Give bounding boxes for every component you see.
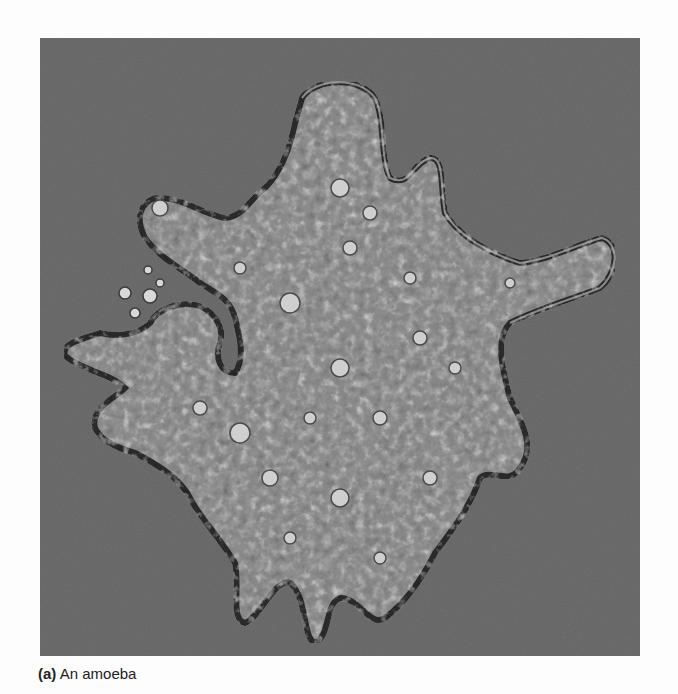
caption-label: (a) bbox=[38, 665, 56, 682]
caption-text: An amoeba bbox=[60, 665, 137, 682]
amoeba-micrograph bbox=[40, 38, 640, 656]
amoeba-illustration bbox=[40, 38, 640, 656]
figure-caption: (a) An amoeba bbox=[38, 665, 136, 682]
figure: (a) An amoeba bbox=[0, 0, 678, 694]
